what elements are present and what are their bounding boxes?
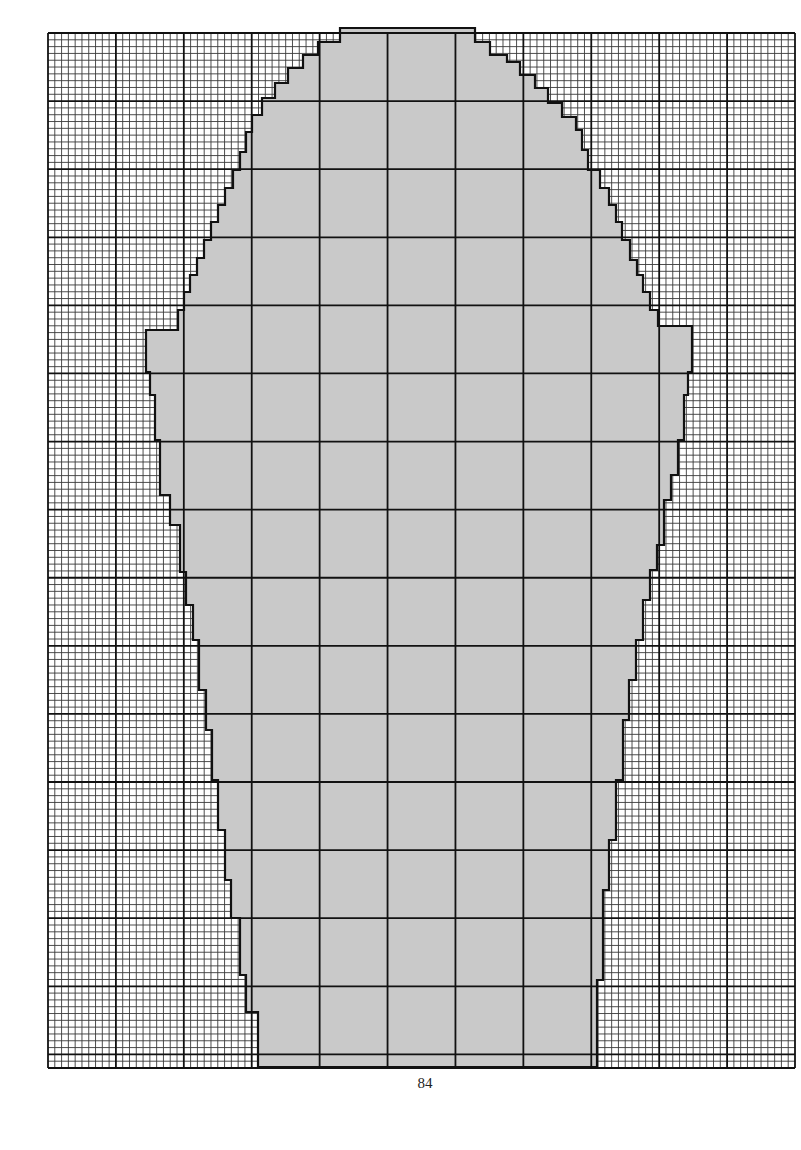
knitting-chart: 84 xyxy=(0,0,801,1150)
page-number: 84 xyxy=(418,1075,433,1091)
chart-canvas xyxy=(0,0,801,1150)
page-number-box: 84 xyxy=(405,1071,445,1095)
